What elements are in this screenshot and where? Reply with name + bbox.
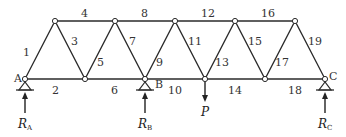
member-label-8: 8 (141, 7, 148, 20)
joint (82, 76, 87, 81)
support-B (136, 82, 154, 90)
load-label-P: P (200, 105, 210, 119)
member-label-2: 2 (52, 84, 59, 97)
truss-diagram: A B C RA RB RC P 12345678910111213141516… (0, 0, 346, 137)
joint (292, 18, 297, 23)
label-A: A (13, 72, 23, 85)
reaction-arrow-B (142, 92, 148, 113)
joint-C (322, 76, 327, 81)
member-label-17: 17 (275, 56, 289, 69)
label-C: C (329, 70, 337, 83)
joint (202, 76, 207, 81)
member-label-13: 13 (215, 56, 229, 69)
joint (52, 18, 57, 23)
joint-A (22, 76, 27, 81)
joint-B (142, 76, 147, 81)
joint (262, 76, 267, 81)
joint (172, 18, 177, 23)
web-members (25, 21, 325, 79)
joint (112, 18, 117, 23)
member-label-16: 16 (261, 7, 275, 20)
member-label-7: 7 (129, 35, 136, 48)
member-label-11: 11 (188, 35, 202, 48)
member-label-5: 5 (97, 56, 104, 69)
member-label-4: 4 (81, 7, 88, 20)
member-label-10: 10 (168, 84, 182, 97)
member-label-12: 12 (201, 7, 215, 20)
load-arrow-P (202, 82, 208, 102)
reaction-arrow-C (322, 92, 328, 113)
member-label-14: 14 (228, 84, 242, 97)
member-label-6: 6 (111, 84, 118, 97)
member-label-19: 19 (308, 35, 322, 48)
member-label-9: 9 (156, 56, 163, 69)
joints (22, 18, 327, 81)
reaction-label-RC: RC (317, 117, 332, 132)
reaction-label-RA: RA (17, 117, 33, 132)
member-label-18: 18 (288, 84, 302, 97)
label-B: B (155, 78, 163, 91)
support-C (316, 82, 334, 90)
member-label-15: 15 (248, 35, 262, 48)
reaction-label-RB: RB (137, 117, 152, 132)
member-label-3: 3 (71, 35, 78, 48)
reaction-arrow-A (22, 92, 28, 113)
member-label-1: 1 (23, 46, 30, 59)
joint (232, 18, 237, 23)
